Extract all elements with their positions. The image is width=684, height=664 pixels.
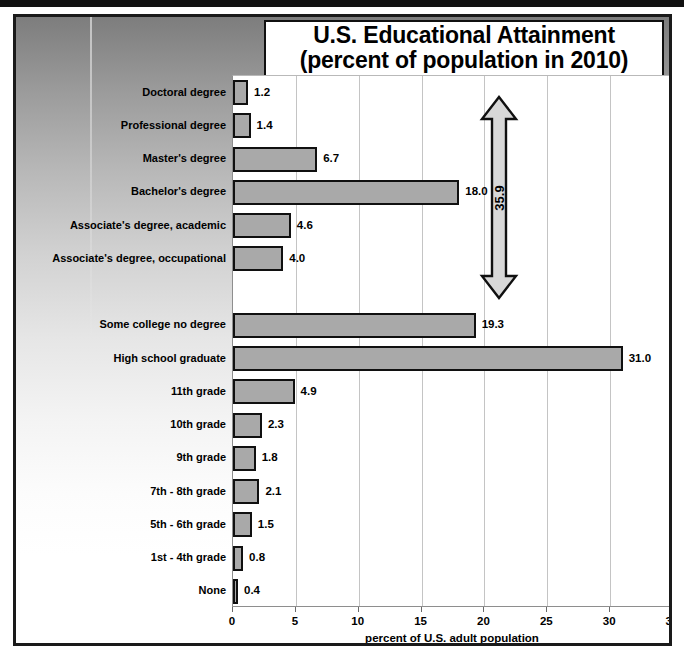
bar-value-label: 1.8	[262, 451, 278, 463]
college-total-arrow: 35.9	[479, 95, 519, 300]
x-axis-tick-mark	[295, 607, 296, 612]
x-axis-tick-mark	[546, 607, 547, 612]
bar	[233, 313, 476, 338]
bar-value-label: 31.0	[629, 352, 651, 364]
plot-area: 1.21.46.718.04.64.019.331.04.92.31.82.11…	[232, 75, 672, 607]
x-axis-tick-label: 20	[477, 615, 490, 627]
bar	[233, 246, 283, 271]
gridline	[359, 76, 360, 606]
category-label: Professional degree	[26, 119, 226, 131]
category-label: 9th grade	[26, 451, 226, 463]
category-label: High school graduate	[26, 352, 226, 364]
x-axis-tick-label: 35	[666, 615, 672, 627]
bar-value-label: 2.1	[265, 485, 281, 497]
x-axis-tick-mark	[232, 607, 233, 612]
chart-figure: U.S. Educational Attainment (percent of …	[13, 14, 672, 646]
category-label: 11th grade	[26, 385, 226, 397]
bar-value-label: 4.9	[301, 385, 317, 397]
bar-value-label: 4.0	[289, 252, 305, 264]
bar	[233, 446, 256, 471]
x-axis-title: percent of U.S. adult population	[232, 632, 672, 644]
chart-subtitle: (percent of population in 2010)	[272, 48, 656, 73]
bar-value-label: 0.4	[244, 584, 260, 596]
x-axis-tick-label: 15	[414, 615, 427, 627]
bar	[233, 579, 238, 604]
bar-value-label: 1.4	[257, 119, 273, 131]
bar-value-label: 0.8	[249, 551, 265, 563]
category-label: None	[26, 584, 226, 596]
category-label: Associate's degree, academic	[26, 219, 226, 231]
bar-value-label: 19.3	[482, 318, 504, 330]
gradient-highlight-streak	[90, 17, 92, 347]
bar	[233, 479, 259, 504]
x-axis-tick-label: 10	[351, 615, 364, 627]
category-label: Some college no degree	[26, 318, 226, 330]
category-label: Master's degree	[26, 152, 226, 164]
bar	[233, 546, 243, 571]
category-label: 10th grade	[26, 418, 226, 430]
gridline	[547, 76, 548, 606]
category-label: Associate's degree, occupational	[26, 252, 226, 264]
bar-value-label: 4.6	[297, 219, 313, 231]
x-axis-tick-label: 30	[603, 615, 616, 627]
page-title: U.S. Educational Attainment	[272, 23, 656, 48]
chart-title-box: U.S. Educational Attainment (percent of …	[264, 20, 664, 78]
x-axis-tick-label: 5	[292, 615, 298, 627]
top-black-band	[0, 0, 684, 7]
bar-value-label: 2.3	[268, 418, 284, 430]
gridline	[610, 76, 611, 606]
bar	[233, 346, 623, 371]
bar	[233, 512, 252, 537]
gridline	[422, 76, 423, 606]
bar	[233, 113, 251, 138]
arrow-value-label: 35.9	[492, 185, 507, 210]
bar	[233, 80, 248, 105]
bar	[233, 180, 459, 205]
bar	[233, 379, 295, 404]
category-label: Doctoral degree	[26, 86, 226, 98]
x-axis-tick-mark	[609, 607, 610, 612]
bar	[233, 213, 291, 238]
x-axis-tick-mark	[358, 607, 359, 612]
bar-value-label: 1.2	[254, 86, 270, 98]
x-axis-tick-mark	[483, 607, 484, 612]
bar	[233, 147, 317, 172]
category-label: 1st - 4th grade	[26, 551, 226, 563]
bar	[233, 413, 262, 438]
x-axis-tick-label: 25	[540, 615, 553, 627]
x-axis-tick-label: 0	[229, 615, 235, 627]
bar-value-label: 6.7	[323, 152, 339, 164]
category-label: Bachelor's degree	[26, 185, 226, 197]
category-label: 7th - 8th grade	[26, 485, 226, 497]
x-axis-tick-mark	[421, 607, 422, 612]
bar-value-label: 1.5	[258, 518, 274, 530]
category-label: 5th - 6th grade	[26, 518, 226, 530]
